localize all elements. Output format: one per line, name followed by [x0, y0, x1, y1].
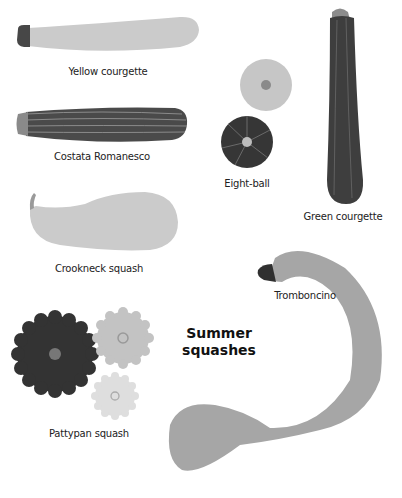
- label-pattypan-squash: Pattypan squash: [49, 428, 129, 439]
- yellow-courgette-illustration: [17, 17, 199, 51]
- costata-romanesco-illustration: [17, 108, 188, 142]
- label-tromboncino: Tromboncino: [274, 290, 336, 301]
- tromboncino-illustration: [169, 251, 382, 471]
- page-title: Summer squashes: [182, 325, 256, 359]
- label-eight-ball: Eight-ball: [224, 178, 269, 189]
- eight-ball-illustration: [221, 59, 292, 168]
- label-crookneck-squash: Crookneck squash: [55, 263, 143, 274]
- title-line-2: squashes: [182, 342, 256, 359]
- label-green-courgette: Green courgette: [304, 211, 383, 222]
- label-costata-romanesco: Costata Romanesco: [54, 151, 150, 162]
- squash-illustrations: [0, 0, 402, 498]
- crookneck-squash-illustration: [30, 192, 178, 250]
- pattypan-squash-illustration: [11, 307, 154, 420]
- label-yellow-courgette: Yellow courgette: [68, 66, 147, 77]
- title-line-1: Summer: [182, 325, 256, 342]
- green-courgette-illustration: [327, 9, 363, 205]
